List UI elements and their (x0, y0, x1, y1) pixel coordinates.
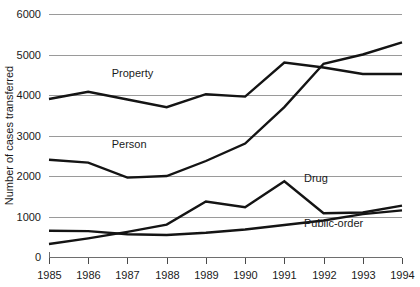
y-tick-label-2000: 2000 (17, 170, 41, 182)
y-tick-label-6000: 6000 (17, 8, 41, 20)
x-tick-label-1987: 1987 (115, 269, 139, 281)
y-tick-label-4000: 4000 (17, 89, 41, 101)
y-tick-label-3000: 3000 (17, 130, 41, 142)
x-tick-label-1989: 1989 (194, 269, 218, 281)
x-tick-label-1994: 1994 (390, 269, 414, 281)
line-chart-figure: 0100020003000400050006000198519861987198… (0, 0, 420, 287)
x-tick-label-1993: 1993 (351, 269, 375, 281)
x-tick-label-1986: 1986 (76, 269, 100, 281)
chart-plot-area: 0100020003000400050006000198519861987198… (0, 0, 420, 287)
x-tick-label-1985: 1985 (37, 269, 61, 281)
series-line-person (49, 42, 402, 177)
series-label-property: Property (112, 67, 154, 79)
y-axis-title: Number of cases transferred (3, 66, 15, 205)
x-tick-label-1990: 1990 (233, 269, 257, 281)
x-tick-label-1991: 1991 (272, 269, 296, 281)
x-tick-label-1988: 1988 (155, 269, 179, 281)
series-label-person: Person (112, 138, 147, 150)
series-label-public-order: Public-order (304, 217, 364, 229)
y-tick-label-1000: 1000 (17, 211, 41, 223)
y-tick-label-0: 0 (35, 251, 41, 263)
x-tick-label-1992: 1992 (312, 269, 336, 281)
y-tick-label-5000: 5000 (17, 49, 41, 61)
series-label-drug: Drug (304, 172, 328, 184)
series-line-drug (49, 181, 402, 244)
series-line-property (49, 63, 402, 108)
